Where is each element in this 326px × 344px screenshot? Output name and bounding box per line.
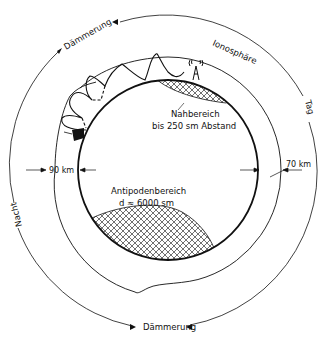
label-night: Nacht: [8, 201, 24, 228]
label-twilight-top: Dämmerung: [62, 16, 113, 51]
label-antipode-title: Antipodenbereich: [111, 186, 186, 196]
label-near-zone-range: bis 250 sm Abstand: [152, 121, 236, 131]
label-twilight-bottom: Dämmerung: [143, 322, 196, 332]
arrow-icon: [130, 324, 136, 330]
label-day: Tag: [303, 98, 317, 115]
ionosphere-diagram: 90 km 70 km Dämmerung Ionosphäre Tag Nac…: [0, 0, 326, 344]
label-ionosphere: Ionosphäre: [211, 38, 258, 66]
label-height-day: 70 km: [286, 160, 311, 169]
label-near-zone-title: Nahbereich: [171, 109, 220, 119]
label-height-night: 90 km: [49, 166, 74, 175]
label-antipode-range: d ≈ 6000 sm: [119, 198, 174, 208]
ship-icon: [64, 128, 84, 141]
arrow-icon: [57, 48, 62, 54]
antenna-icon: [189, 60, 203, 80]
arc-night-upper: [9, 52, 58, 203]
diagram-canvas: 90 km 70 km Dämmerung Ionosphäre Tag Nac…: [0, 0, 326, 344]
arrow-icon: [112, 19, 118, 25]
